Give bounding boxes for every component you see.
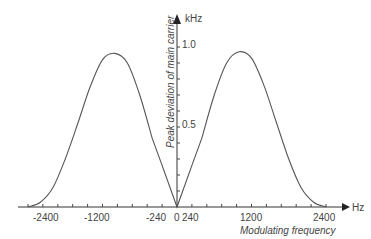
y-axis-title: Peak deviation of main carrier <box>165 15 176 148</box>
x-unit-label: Hz <box>352 202 364 213</box>
x-tick-label-neg1200: -1200 <box>84 212 110 223</box>
y-tick-label-1.0: 1.0 <box>182 39 196 50</box>
x-tick-label-0: 0 <box>174 212 180 223</box>
x-axis-arrow-icon <box>342 203 350 211</box>
chart: Hz kHz 1.0 0.5 -2400 -1200 -240 0 240 12… <box>0 0 371 239</box>
x-tick-label-240: 240 <box>182 212 199 223</box>
x-tick-label-1200: 1200 <box>240 212 263 223</box>
x-tick-label-neg2400: -2400 <box>33 212 59 223</box>
y-unit-label: kHz <box>185 13 202 24</box>
x-tick-label-2400: 2400 <box>313 212 336 223</box>
x-tick-label-neg240: -240 <box>146 212 166 223</box>
x-axis-title: Modulating frequency <box>240 225 337 236</box>
y-tick-label-0.5: 0.5 <box>182 119 196 130</box>
